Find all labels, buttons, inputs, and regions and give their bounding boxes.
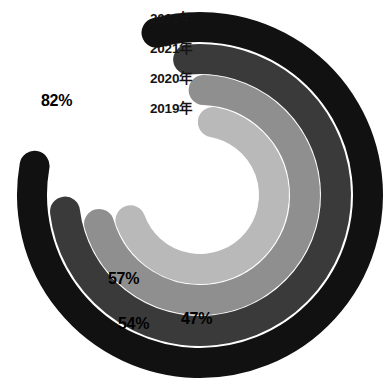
legend-label-2021: 2021年 [150, 42, 192, 56]
arc-chart-canvas [0, 0, 385, 389]
value-label-2020: 47% [181, 311, 212, 327]
legend-item-2021[interactable]: 2021年 [136, 34, 192, 64]
value-label-2022: 82% [41, 93, 72, 109]
legend-label-2022: 2022年 [150, 12, 192, 26]
legend-label-2019: 2019年 [150, 102, 192, 116]
radial-arc-chart: 2022年 2021年 2020年 2019年 82% 57% 47% 54% [0, 0, 385, 389]
value-label-2019: 57% [108, 271, 139, 287]
legend-label-2020: 2020年 [150, 72, 192, 86]
legend-item-2022[interactable]: 2022年 [136, 4, 192, 34]
legend-item-2019[interactable]: 2019年 [136, 94, 192, 124]
value-label-2021: 54% [118, 316, 149, 332]
legend-item-2020[interactable]: 2020年 [136, 64, 192, 94]
legend: 2022年 2021年 2020年 2019年 [136, 4, 192, 124]
arc-2019年[interactable] [130, 122, 274, 269]
